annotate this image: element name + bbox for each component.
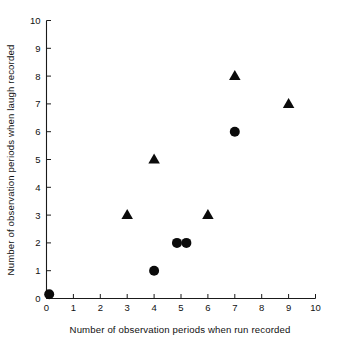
x-tick-label-8: 8 <box>259 302 264 313</box>
y-tick-label-3: 3 <box>35 210 40 221</box>
data-point-circle-4.85-2 <box>172 238 182 248</box>
x-tick-label-5: 5 <box>178 302 183 313</box>
y-tick-label-5: 5 <box>35 154 40 165</box>
x-tick-label-4: 4 <box>151 302 156 313</box>
y-tick-label-4: 4 <box>35 182 40 193</box>
y-tick-label-2: 2 <box>35 237 40 248</box>
y-tick-label-9: 9 <box>35 43 40 54</box>
y-tick-label-10: 10 <box>30 15 41 26</box>
y-tick-label-6: 6 <box>35 126 40 137</box>
y-tick-label-0: 0 <box>35 293 40 304</box>
y-axis-label: Number of observation periods when laugh… <box>5 45 16 276</box>
data-point-circle-4-1 <box>149 266 159 276</box>
x-tick-label-6: 6 <box>205 302 210 313</box>
scatter-plot-figure: 012345678910 012345678910 Number of obse… <box>0 0 337 342</box>
data-point-circle-0.1-0.15 <box>44 289 54 299</box>
x-tick-label-7: 7 <box>232 302 237 313</box>
x-tick-label-1: 1 <box>71 302 76 313</box>
y-tick-label-7: 7 <box>35 98 40 109</box>
x-tick-label-10: 10 <box>310 302 321 313</box>
data-point-circle-7-6 <box>230 127 240 137</box>
x-tick-label-2: 2 <box>98 302 103 313</box>
x-tick-label-0: 0 <box>44 302 49 313</box>
y-tick-label-8: 8 <box>35 71 40 82</box>
chart-canvas: 012345678910 012345678910 Number of obse… <box>0 0 337 342</box>
data-point-circle-5.2-2 <box>181 238 191 248</box>
x-tick-label-3: 3 <box>125 302 130 313</box>
y-tick-label-1: 1 <box>35 265 40 276</box>
x-tick-label-9: 9 <box>286 302 291 313</box>
x-axis-label: Number of observation periods when run r… <box>70 324 291 335</box>
